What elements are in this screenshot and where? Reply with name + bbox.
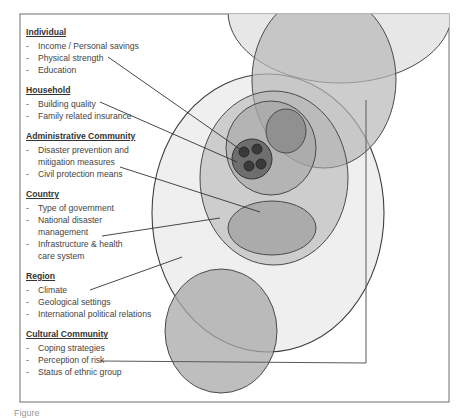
list-item: -Physical strength: [26, 52, 226, 64]
list-item: -Education: [26, 64, 226, 76]
list-item: -Climate: [26, 284, 226, 296]
individual-dot: [256, 159, 266, 169]
group-title: Administrative Community: [26, 130, 226, 142]
group-admin-community: Administrative Community -Disaster preve…: [26, 130, 226, 180]
group-title: Cultural Community: [26, 328, 226, 340]
group-cultural-community: Cultural Community -Coping strategies -P…: [26, 328, 226, 378]
legend: Individual -Income / Personal savings -P…: [26, 26, 226, 386]
list-item: -Disaster prevention and mitigation meas…: [26, 144, 226, 168]
individual-dot: [244, 161, 254, 171]
list-item: -Infrastructure & health care system: [26, 238, 226, 262]
group-region: Region -Climate -Geological settings -In…: [26, 270, 226, 320]
list-item: -Geological settings: [26, 296, 226, 308]
list-item: -Income / Personal savings: [26, 40, 226, 52]
group-country: Country -Type of government -National di…: [26, 188, 226, 262]
country-inner-ellipse: [228, 201, 316, 255]
list-item: -Perception of risk: [26, 354, 226, 366]
list-item: -Building quality: [26, 98, 226, 110]
list-item: -Civil protection means: [26, 168, 226, 180]
list-item: -National disaster management: [26, 214, 226, 238]
group-title: Household: [26, 84, 226, 96]
list-item: -Status of ethnic group: [26, 366, 226, 378]
group-title: Country: [26, 188, 226, 200]
group-title: Region: [26, 270, 226, 282]
group-household: Household -Building quality -Family rela…: [26, 84, 226, 122]
group-title: Individual: [26, 26, 226, 38]
list-item: -Family related insurance: [26, 110, 226, 122]
list-item: -Coping strategies: [26, 342, 226, 354]
figure-caption: Figure: [14, 408, 40, 418]
group-individual: Individual -Income / Personal savings -P…: [26, 26, 226, 76]
list-item: -Type of government: [26, 202, 226, 214]
household-circle: [232, 139, 272, 179]
inner-dark-ellipse: [266, 109, 306, 153]
list-item: -International political relations: [26, 308, 226, 320]
individual-dot: [252, 144, 262, 154]
